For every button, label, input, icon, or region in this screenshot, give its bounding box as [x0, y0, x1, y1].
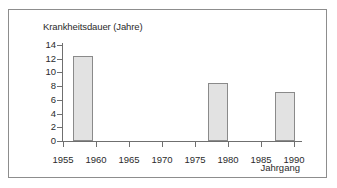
x-tick-label-text: 1970	[151, 154, 172, 165]
chart-title: Krankheitsdauer (Jahre)	[43, 21, 143, 32]
x-tick-mark	[96, 142, 97, 147]
y-tick-label-text: 10	[45, 67, 56, 77]
y-tick-label-text: 12	[45, 54, 56, 64]
y-tick-label: 2	[36, 122, 56, 132]
bar	[208, 83, 228, 141]
y-tick-label-text: 6	[51, 95, 56, 105]
y-tick-label: 14	[36, 40, 56, 50]
y-tick-label: 0	[36, 136, 56, 146]
bar-chart: Krankheitsdauer (Jahre) 02468101214 1955…	[0, 0, 337, 188]
x-tick-label-text: 1955	[52, 154, 73, 165]
y-tick-label: 6	[36, 95, 56, 105]
y-tick-label: 10	[36, 67, 56, 77]
bar	[73, 56, 93, 141]
x-tick-mark	[162, 142, 163, 147]
y-tick-label-text: 2	[51, 122, 56, 132]
y-tick-label: 12	[36, 54, 56, 64]
y-tick-label-text: 14	[45, 40, 56, 50]
x-axis-label: Jahrgang	[200, 162, 300, 173]
bar	[275, 92, 295, 141]
y-tick-label-text: 4	[51, 109, 56, 119]
x-tick-mark	[129, 142, 130, 147]
y-tick-label: 4	[36, 109, 56, 119]
x-axis-line	[62, 141, 302, 142]
x-tick-mark	[63, 142, 64, 147]
y-tick-label-text: 8	[51, 81, 56, 91]
x-tick-label-text: 1960	[85, 154, 106, 165]
y-tick-label: 8	[36, 81, 56, 91]
plot-area	[63, 45, 301, 141]
x-tick-label-text: 1965	[118, 154, 139, 165]
x-tick-mark	[228, 142, 229, 147]
x-tick-mark	[294, 142, 295, 147]
x-tick-mark	[195, 142, 196, 147]
x-tick-mark	[261, 142, 262, 147]
y-tick-label-text: 0	[51, 136, 56, 146]
